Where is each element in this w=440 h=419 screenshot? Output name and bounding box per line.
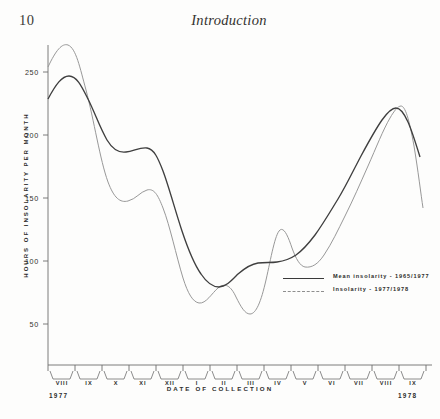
x-tick-label-13: IX [393,380,433,386]
x-axis-end-year: 1978 [398,392,417,399]
legend-line-dashed-icon [283,291,324,292]
running-title: Introduction [0,12,440,29]
x-axis-start-year: 1977 [49,392,68,399]
y-tick-label-50: 50 [13,320,39,329]
y-axis-ticks [43,72,48,324]
x-axis-ticks [48,365,426,371]
book-page: 10 Introduction [0,0,440,419]
running-head: 10 Introduction [0,12,440,34]
chart-legend: Mean insolarity - 1965/1977 Insolarity -… [283,273,433,299]
legend-label-mean-insolarity: Mean insolarity - 1965/1977 [333,273,429,279]
y-tick-label-150: 150 [13,194,39,203]
series-line-mean-insolarity-1965-1977 [48,76,420,287]
insolarity-line-chart [0,40,440,419]
y-tick-label-100: 100 [13,257,39,266]
legend-line-solid-icon [283,278,324,279]
x-axis-title: DATE OF COLLECTION [110,385,330,392]
y-tick-label-200: 200 [13,131,39,140]
y-tick-label-250: 250 [13,68,39,77]
legend-item-mean-insolarity: Mean insolarity - 1965/1977 [283,273,433,286]
chart-figure: HOURS OF INSOLARITY PER MONTH 250 200 15… [0,40,440,419]
month-brackets [50,371,424,379]
legend-label-insolarity: Insolarity - 1977/1978 [333,286,409,292]
legend-item-insolarity: Insolarity - 1977/1978 [283,286,433,299]
